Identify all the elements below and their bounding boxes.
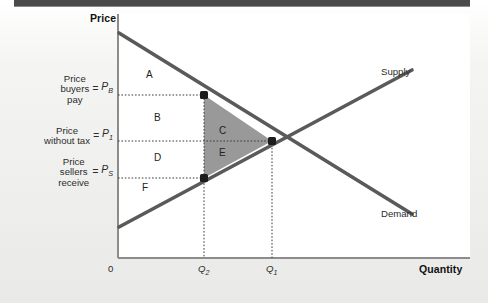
region-label-d: D — [154, 152, 161, 163]
tick-q2-sub: 2 — [205, 269, 209, 276]
price-buyers-pay-label: Price buyers pay = PB — [18, 74, 113, 105]
price-sellers-line3: receive — [58, 178, 89, 188]
price-without-tax-line2: without tax — [44, 136, 90, 146]
x-axis-title: Quantity — [419, 263, 462, 275]
region-label-b: B — [154, 112, 161, 123]
region-label-c: C — [219, 125, 226, 136]
tick-label-q2: Q2 — [198, 263, 209, 276]
price-sellers-symbol-sub: S — [108, 169, 113, 178]
price-buyers-symbol-sub: B — [108, 86, 113, 95]
demand-curve-label: Demand — [381, 208, 417, 219]
origin-label: 0 — [108, 263, 113, 274]
price-sellers-equals-sign: = — [92, 167, 98, 177]
tick-q1-sub: 1 — [273, 269, 277, 276]
point-price-sellers — [200, 174, 208, 182]
price-without-tax-equals-sign: = — [93, 131, 99, 141]
tick-label-q1: Q1 — [266, 263, 277, 276]
price-sellers-receive-label: Price sellers receive = PS — [18, 157, 113, 188]
price-sellers-symbol: PS — [101, 165, 113, 179]
supply-demand-svg — [0, 0, 488, 303]
price-without-tax-label: Price without tax = P1 — [8, 126, 113, 147]
price-buyers-line3: pay — [60, 95, 89, 105]
price-without-tax-symbol-letter: P — [102, 128, 109, 139]
figure-container: Price Quantity 0 Price buyers pay = PB P… — [0, 0, 488, 303]
point-equilibrium — [268, 137, 276, 145]
region-label-a: A — [146, 69, 153, 80]
region-label-f: F — [142, 182, 148, 193]
plot-area — [0, 0, 488, 303]
price-buyers-symbol: PB — [101, 82, 113, 96]
supply-curve-label: Supply — [381, 66, 410, 77]
region-label-e: E — [219, 147, 226, 158]
y-axis-title: Price — [90, 12, 116, 24]
price-without-tax-symbol-sub: 1 — [109, 133, 113, 142]
point-price-buyers — [200, 91, 208, 99]
price-without-tax-symbol: P1 — [102, 129, 113, 143]
plot-panel — [118, 14, 470, 258]
price-buyers-equals-sign: = — [92, 84, 98, 94]
